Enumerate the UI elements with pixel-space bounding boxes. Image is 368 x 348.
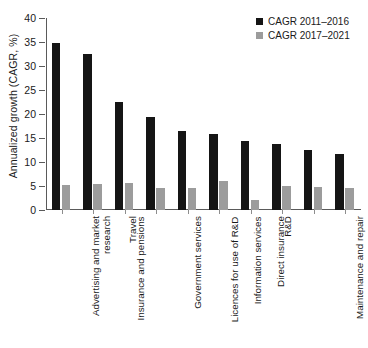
- bar: [219, 181, 228, 210]
- legend-swatch: [256, 32, 263, 39]
- bar: [314, 187, 323, 210]
- y-tick-mark: [39, 162, 45, 163]
- bar: [178, 131, 187, 210]
- bar: [304, 150, 313, 210]
- legend-label: CAGR 2011–2016: [268, 16, 349, 27]
- y-tick-mark: [39, 210, 45, 211]
- y-tick-label: 25: [24, 85, 36, 96]
- x-axis-category-label: Licences for use of R&D: [172, 214, 204, 346]
- x-axis-category-label: Information services: [204, 214, 236, 346]
- bar: [62, 185, 71, 210]
- bar: [335, 154, 344, 210]
- y-tick-label: 40: [24, 13, 36, 24]
- bar-group: [52, 18, 71, 210]
- bar-group: [115, 18, 134, 210]
- y-axis-line: [46, 18, 47, 210]
- bar-group: [272, 18, 291, 210]
- bar-group: [304, 18, 323, 210]
- bar: [209, 134, 218, 210]
- y-axis-title-text: Annualized growth (CAGR, %): [7, 34, 19, 179]
- y-tick-mark: [39, 90, 45, 91]
- y-tick-mark: [39, 42, 45, 43]
- bar-group: [83, 18, 102, 210]
- bar: [272, 144, 281, 210]
- bar: [282, 186, 291, 210]
- y-tick-label: 35: [24, 37, 36, 48]
- y-tick-label: 5: [30, 181, 36, 192]
- category-label-line: R&D: [282, 216, 293, 237]
- y-tick-mark: [39, 114, 45, 115]
- y-tick-label: 15: [24, 133, 36, 144]
- bar: [241, 141, 250, 210]
- y-tick-mark: [39, 186, 45, 187]
- bar-group: [209, 18, 228, 210]
- bar: [345, 188, 354, 210]
- category-label-text: R&D: [282, 216, 293, 237]
- legend-label: CAGR 2017–2021: [268, 30, 350, 41]
- y-tick-label: 0: [30, 205, 36, 216]
- bar-group: [178, 18, 197, 210]
- x-axis-category-label: Charges for use of IP: [330, 214, 362, 346]
- y-tick-label: 20: [24, 109, 36, 120]
- bar-group: [146, 18, 165, 210]
- plot-area: 0510152025303540: [46, 18, 361, 210]
- y-tick-mark: [39, 18, 45, 19]
- chart-figure: Annualized growth (CAGR, %) 051015202530…: [0, 0, 368, 348]
- bar: [125, 183, 134, 210]
- x-axis-category-label: R&D: [267, 214, 299, 346]
- category-label-line: Travel: [127, 216, 138, 243]
- x-axis-category-label: Insurance and pensions: [78, 214, 110, 346]
- x-axis-category-label: Government services: [141, 214, 173, 346]
- y-axis-title: Annualized growth (CAGR, %): [2, 0, 24, 212]
- category-label-text: Travel: [127, 216, 138, 243]
- bar: [188, 188, 197, 210]
- bar: [156, 188, 165, 210]
- x-axis-category-label: Direct insurance: [235, 214, 267, 346]
- y-tick-label: 30: [24, 61, 36, 72]
- bar: [83, 54, 92, 210]
- x-axis-category-label: Maintenance and repair: [298, 214, 330, 346]
- bar: [52, 43, 61, 210]
- bar: [251, 200, 260, 210]
- bar-group: [335, 18, 354, 210]
- y-tick-label: 10: [24, 157, 36, 168]
- bar: [146, 117, 155, 210]
- x-axis-category-labels: Advertising and marketresearchInsurance …: [46, 214, 361, 348]
- bar-group: [241, 18, 260, 210]
- bar: [93, 184, 102, 210]
- y-tick-mark: [39, 66, 45, 67]
- legend-swatch: [256, 18, 263, 25]
- x-axis-category-label: Travel: [109, 214, 141, 346]
- legend-item: CAGR 2017–2021: [256, 30, 350, 41]
- bar: [115, 102, 124, 210]
- legend-item: CAGR 2011–2016: [256, 16, 350, 27]
- y-tick-mark: [39, 138, 45, 139]
- chart-legend: CAGR 2011–2016CAGR 2017–2021: [256, 16, 350, 44]
- x-axis-category-label: Advertising and marketresearch: [46, 214, 78, 346]
